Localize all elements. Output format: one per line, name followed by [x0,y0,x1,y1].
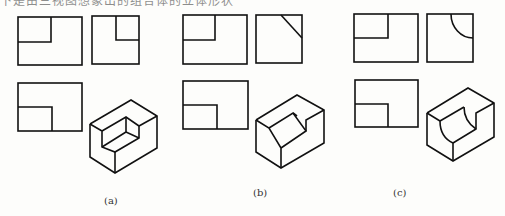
isometric-view-a [90,100,157,173]
front-view-b [183,15,247,64]
caption-a: (a) [104,195,118,206]
caption-b: (b) [253,187,267,198]
top-view-a [18,83,82,131]
isometric-view-c [427,88,494,161]
figure-c [354,14,494,161]
top-view-b [183,81,248,129]
figure-a [18,16,157,173]
front-view-c [354,14,418,62]
front-view-a [18,17,82,65]
caption-c: (c) [393,187,406,198]
isometric-view-b [256,95,324,168]
top-view-c [355,80,418,127]
three-view-drawings [0,0,505,216]
figure-b [183,15,324,168]
side-view-b [256,15,302,63]
side-view-a [92,16,139,64]
side-view-c [427,14,473,62]
